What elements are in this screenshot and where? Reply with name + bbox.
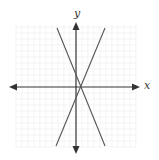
graph-svg [0,0,159,160]
y-axis-down-arrow-icon [73,146,80,154]
y-axis [73,22,80,154]
x-axis-left-arrow-icon [9,84,17,91]
x-axis-label: x [144,80,150,91]
coordinate-plane: y x [0,0,159,160]
y-axis-up-arrow-icon [73,22,80,30]
y-axis-label: y [74,8,80,19]
x-axis [9,84,140,91]
